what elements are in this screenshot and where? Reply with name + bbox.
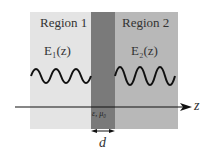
wave-region-1 xyxy=(31,69,91,83)
d-arrow-right xyxy=(109,129,115,133)
d-arrow-left xyxy=(91,129,97,133)
wave-region-2 xyxy=(115,67,175,85)
diagram-overlay xyxy=(0,0,212,156)
